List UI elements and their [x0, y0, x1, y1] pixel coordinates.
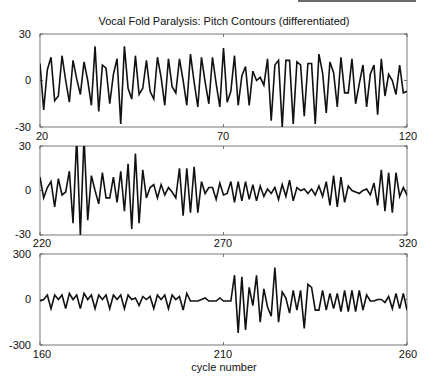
panel-1-xtick-mid: 70 [217, 130, 229, 142]
panel-2: 30 0 -30 220 270 320 [15, 137, 417, 249]
panel-1-ytick-mid: 0 [25, 74, 31, 86]
panel-2-series-line [40, 137, 411, 235]
panel-1-ytick-top: 30 [19, 28, 31, 40]
panel-3-ytick-mid: 0 [25, 293, 31, 305]
panel-3-xtick-mid: 210 [214, 348, 232, 360]
panel-2-xtick-left: 220 [33, 237, 51, 249]
panel-2-xtick-right: 320 [399, 237, 417, 249]
chart-figure: Vocal Fold Paralysis: Pitch Contours (di… [0, 0, 435, 390]
panel-3-ytick-top: 300 [13, 248, 31, 260]
panel-3-ytick-bottom: -300 [9, 339, 31, 351]
x-axis-label: cycle number [191, 361, 257, 373]
panel-3-xtick-left: 160 [33, 348, 51, 360]
panel-3: 300 0 -300 160 210 260 cycle number [9, 248, 417, 373]
panel-1: 30 0 -30 20 70 120 [15, 28, 417, 142]
panel-2-ytick-bottom: -30 [15, 228, 31, 240]
panel-3-xtick-right: 260 [399, 348, 417, 360]
panel-3-frame [40, 254, 407, 345]
panel-2-ytick-top: 30 [19, 140, 31, 152]
panel-1-xtick-left: 20 [36, 130, 48, 142]
chart-title: Vocal Fold Paralysis: Pitch Contours (di… [98, 15, 349, 27]
panel-1-ytick-bottom: -30 [15, 121, 31, 133]
panel-2-ytick-mid: 0 [25, 184, 31, 196]
panel-1-series-line [40, 46, 407, 127]
panel-2-xtick-mid: 270 [214, 237, 232, 249]
panel-3-series-line [40, 268, 411, 333]
panel-1-xtick-right: 120 [399, 130, 417, 142]
